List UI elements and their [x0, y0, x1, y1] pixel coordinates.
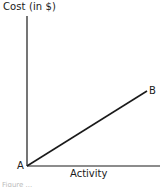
- point-b-label: B: [149, 85, 156, 96]
- x-axis-label: Activity: [70, 168, 107, 179]
- chart-canvas: [0, 0, 163, 187]
- point-a-label: A: [17, 160, 24, 171]
- cost-line: [27, 91, 147, 166]
- figure-caption: Figure ...: [2, 181, 32, 187]
- y-axis-label: Cost (in $): [3, 1, 56, 12]
